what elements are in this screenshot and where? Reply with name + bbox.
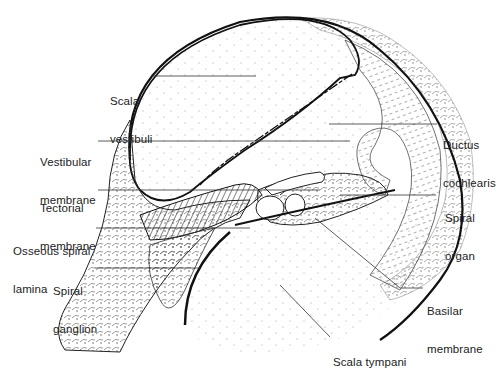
label-spiral-organ: Spiral organ — [445, 187, 475, 275]
label-spiral-ganglion: Spiral ganglion — [53, 260, 97, 348]
label-scala-tympani: Scala tympani — [333, 331, 407, 369]
label-basilar-membrane: Basilar membrane — [427, 280, 483, 368]
label-scala-vestibuli: Scala vestibuli — [110, 70, 152, 158]
